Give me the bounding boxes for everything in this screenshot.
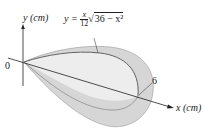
equation: y = x 12 √36 − x² <box>64 11 123 28</box>
equation-lhs: y = <box>64 13 78 24</box>
x-axis-label: x (cm) <box>176 103 201 113</box>
radical-symbol: √ <box>88 13 94 24</box>
y-axis-arrow <box>21 24 25 29</box>
origin-label: 0 <box>5 61 10 71</box>
y-axis-label-text: y (cm) <box>23 12 48 23</box>
equation-radicand: 36 − x² <box>94 12 124 24</box>
x-axis-arrow <box>167 105 174 109</box>
equation-denominator: 12 <box>80 20 88 28</box>
y-axis-label: y (cm) <box>23 13 48 23</box>
tick-label-6: 6 <box>152 76 157 86</box>
equation-fraction: x 12 <box>80 11 88 28</box>
